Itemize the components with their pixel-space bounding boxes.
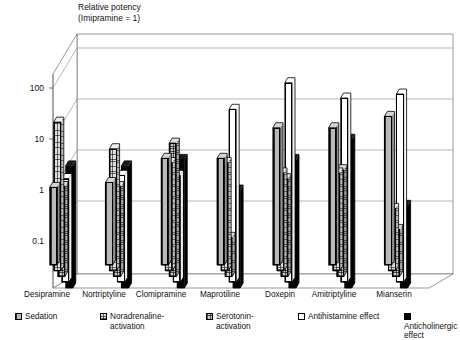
bar-side-face <box>296 154 299 288</box>
bar-side-face <box>404 89 407 282</box>
bar-side-face <box>61 117 64 271</box>
relative-potency-chart: Relative potency (Imipramine = 1) 100 10… <box>0 0 460 340</box>
legend-item-noradrenaline-activation[interactable]: Noradrenaline- activation <box>100 312 164 331</box>
bar-side-face <box>336 123 339 266</box>
antihistamine-swatch <box>298 313 305 320</box>
legend-item-serotonin-activation[interactable]: Serotonin- activation <box>206 312 254 331</box>
bar-front-face <box>217 158 224 265</box>
bar-side-face <box>224 153 227 265</box>
bar-side-face <box>408 200 411 288</box>
bar-front-face <box>105 182 112 265</box>
bar-side-face <box>240 185 243 288</box>
legend-label-antihistamine-effect: Antihistamine effect <box>308 312 379 322</box>
bar-side-face <box>172 158 175 271</box>
bar-side-face <box>392 111 395 265</box>
bar-side-face <box>400 224 403 276</box>
bar-side-face <box>288 174 291 277</box>
bar-side-face <box>117 144 120 271</box>
bar-side-face <box>280 123 283 266</box>
bar-side-face <box>340 168 343 271</box>
bar-side-face <box>228 158 231 271</box>
bar-side-face <box>180 170 183 282</box>
bar-side-face <box>348 93 351 282</box>
legend-label-noradrenaline-activation: Noradrenaline- activation <box>110 312 164 331</box>
bar-side-face <box>284 168 287 271</box>
bar-side-face <box>396 203 399 270</box>
bar-front-face <box>50 187 57 265</box>
bar-side-face <box>352 134 355 288</box>
bar-side-face <box>65 181 68 276</box>
anticholinergic-swatch <box>404 313 411 320</box>
bar-side-face <box>57 182 60 265</box>
bar-side-face <box>232 232 235 276</box>
legend-item-anticholinergic-effect[interactable]: Anticholinergic effect <box>404 312 460 340</box>
legend-label-sedation: Sedation <box>25 312 57 322</box>
bar-front-face <box>273 128 280 266</box>
bar-side-face <box>184 154 187 288</box>
legend-item-antihistamine-effect[interactable]: Antihistamine effect <box>298 312 379 322</box>
noradrenaline-swatch <box>100 313 107 320</box>
bar-front-face <box>161 158 168 265</box>
bar-side-face <box>236 104 239 282</box>
bar-side-face <box>121 181 124 276</box>
bar-side-face <box>129 161 132 288</box>
legend-label-anticholinergic-effect: Anticholinergic effect <box>404 322 460 340</box>
legend-item-sedation[interactable]: Sedation <box>15 312 57 322</box>
category-label-mianserin: Mianserin <box>352 290 436 299</box>
bar-side-face <box>125 170 128 282</box>
sedation-swatch <box>15 313 22 320</box>
bars-layer <box>0 0 460 340</box>
legend-label-serotonin-activation: Serotonin- activation <box>216 312 254 331</box>
bar-side-face <box>168 153 171 265</box>
bar-side-face <box>176 138 179 277</box>
chart-legend: Sedation Noradrenaline- activation Serot… <box>10 310 460 336</box>
serotonin-swatch <box>206 313 213 320</box>
bar-side-face <box>69 174 72 283</box>
bar-side-face <box>292 78 295 283</box>
bar-side-face <box>73 161 76 288</box>
bar-front-face <box>384 116 391 265</box>
bar-side-face <box>344 165 347 277</box>
bar-side-face <box>113 177 116 265</box>
bar-front-face <box>329 128 336 266</box>
